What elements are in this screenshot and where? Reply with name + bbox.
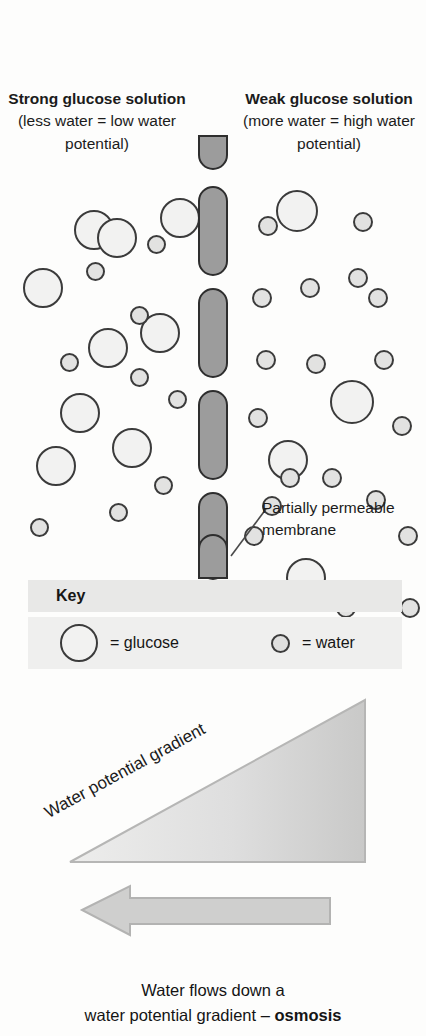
caption-osmosis-term: osmosis bbox=[274, 1006, 341, 1024]
osmosis-diagram: Strong glucose solution (less water = lo… bbox=[0, 0, 426, 1036]
heading-strong-solution-title: Strong glucose solution bbox=[6, 88, 188, 110]
key-item-glucose-label: = glucose bbox=[110, 634, 179, 652]
key-body: = glucose = water bbox=[28, 617, 402, 669]
key-item-glucose: = glucose bbox=[60, 624, 179, 662]
caption-line-2-plain: water potential gradient – bbox=[85, 1006, 275, 1024]
water-flow-arrow bbox=[0, 880, 426, 950]
wedge-shape bbox=[0, 686, 426, 878]
caption-line-1: Water flows down a bbox=[0, 978, 426, 1003]
membrane-segment bbox=[198, 390, 228, 480]
key-header: Key bbox=[28, 580, 402, 612]
key-header-label: Key bbox=[56, 587, 85, 605]
diagram-caption: Water flows down a water potential gradi… bbox=[0, 978, 426, 1028]
membrane-segment bbox=[198, 135, 228, 170]
key-item-water-label: = water bbox=[302, 634, 355, 652]
caption-line-2: water potential gradient – osmosis bbox=[0, 1003, 426, 1028]
arrow-shape bbox=[0, 880, 426, 950]
membrane-segment bbox=[198, 186, 228, 276]
water-potential-gradient-wedge: Water potential gradient bbox=[0, 686, 426, 878]
glucose-circle-icon bbox=[60, 624, 98, 662]
water-circle-icon bbox=[271, 634, 290, 653]
key-box: Key = glucose = water bbox=[28, 580, 402, 669]
membrane-segment bbox=[198, 534, 228, 579]
membrane-segment bbox=[198, 288, 228, 378]
key-item-water: = water bbox=[271, 634, 355, 653]
callout-membrane-label: Partially permeable membrane bbox=[262, 497, 422, 541]
right-water-molecule bbox=[400, 598, 420, 618]
heading-weak-solution-title: Weak glucose solution bbox=[234, 88, 424, 110]
